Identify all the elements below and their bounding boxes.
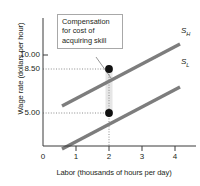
point-skilled-equilibrium [105,65,113,73]
x-tick-label-2: 2 [102,152,116,161]
x-tick-label-3: 3 [135,152,149,161]
x-tick-label-0: 0 [36,152,50,161]
x-tick-label-4: 4 [168,152,182,161]
series-label-sh: SH [181,26,190,37]
annotation-line-1: Compensation [62,17,119,26]
point-unskilled-equilibrium [105,109,113,117]
x-axis-title: Labor (thousands of hours per day) [30,168,198,177]
y-tick-label-850: 8.50 [8,64,40,73]
annotation-line-3: acquiring skill [62,36,119,45]
series-label-sl: SL [181,57,189,68]
y-tick-label-1000: 10.00 [8,50,40,59]
series-label-sh-sub: H [186,31,190,37]
x-tick-label-1: 1 [69,152,83,161]
wage-rate-supply-chart: Wage rate (dollars per hour) Labor (thou… [0,0,200,186]
y-tick-label-500: 5.00 [8,108,40,117]
annotation-line-2: for cost of [62,26,119,35]
series-label-sl-sub: L [186,62,189,68]
annotation-callout: Compensation for cost of acquiring skill [57,14,123,49]
